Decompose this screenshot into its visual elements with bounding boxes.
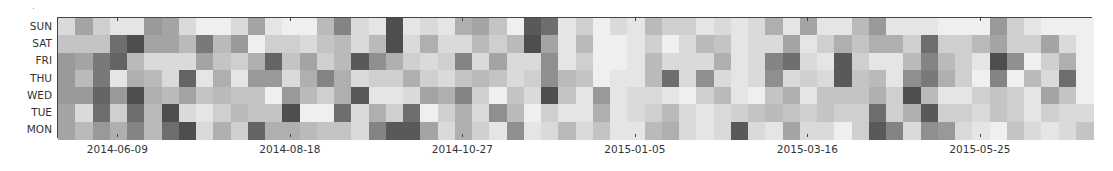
y-tick-label-thu: THU: [30, 72, 52, 84]
x-tick-mark: [462, 134, 463, 137]
heatmap-cell: [317, 122, 335, 140]
heatmap-cell: [524, 35, 542, 53]
heatmap-cell: [507, 70, 525, 88]
heatmap-cell: [645, 70, 663, 88]
heatmap-cell: [420, 70, 438, 88]
heatmap-cell: [179, 87, 197, 105]
heatmap-cell: [645, 104, 663, 122]
heatmap-cell: [248, 70, 266, 88]
heatmap-cell: [869, 87, 887, 105]
heatmap-cell: [507, 53, 525, 71]
heatmap-cell: [541, 104, 559, 122]
heatmap-cell: [765, 122, 783, 140]
heatmap-cell: [196, 122, 214, 140]
heatmap-cell: [834, 70, 852, 88]
heatmap-cell: [162, 35, 180, 53]
heatmap-cell: [645, 18, 663, 36]
heatmap-cell: [300, 35, 318, 53]
heatmap-cell: [938, 87, 956, 105]
heatmap-cell: [489, 53, 507, 71]
heatmap-cell: [593, 122, 611, 140]
heatmap-cell: [162, 70, 180, 88]
heatmap-cell: [489, 18, 507, 36]
heatmap-cell: [593, 35, 611, 53]
heatmap-cell: [455, 104, 473, 122]
x-tick-mark-top: [462, 18, 463, 21]
heatmap-cell: [1024, 35, 1042, 53]
heatmap-cell: [783, 104, 801, 122]
heatmap-cell: [420, 87, 438, 105]
heatmap-cell: [196, 87, 214, 105]
heatmap-cell: [800, 53, 818, 71]
heatmap-cell: [75, 122, 93, 140]
heatmap-cell: [179, 18, 197, 36]
heatmap-cell: [731, 104, 749, 122]
heatmap-cell: [576, 35, 594, 53]
heatmap-cell: [1041, 122, 1059, 140]
heatmap-cell: [817, 122, 835, 140]
heatmap-cell: [1041, 35, 1059, 53]
heatmap-cell: [627, 122, 645, 140]
heatmap-cell: [213, 35, 231, 53]
x-tick-label: 2015-03-16: [777, 143, 838, 155]
heatmap-cell: [213, 70, 231, 88]
heatmap-cell: [662, 35, 680, 53]
heatmap-cell: [886, 70, 904, 88]
heatmap-cell: [765, 53, 783, 71]
heatmap-cell: [93, 35, 111, 53]
heatmap-cell: [489, 122, 507, 140]
heatmap-cell: [627, 70, 645, 88]
heatmap-cell: [110, 122, 128, 140]
x-tick-mark-top: [807, 18, 808, 21]
heatmap-cell: [765, 18, 783, 36]
y-tick-label-sat: SAT: [32, 37, 52, 49]
heatmap-cell: [282, 53, 300, 71]
heatmap-cell: [248, 35, 266, 53]
heatmap-cell: [58, 35, 76, 53]
heatmap-cell: [541, 53, 559, 71]
heatmap-cell: [800, 122, 818, 140]
heatmap-cell: [265, 35, 283, 53]
heatmap-cell: [972, 104, 990, 122]
x-tick-label: 2014-10-27: [432, 143, 493, 155]
heatmap-cell: [351, 35, 369, 53]
heatmap-cell: [852, 87, 870, 105]
heatmap-cell: [317, 104, 335, 122]
heatmap-cell: [127, 18, 145, 36]
heatmap-cell: [403, 70, 421, 88]
heatmap-cell: [558, 70, 576, 88]
heatmap-cell: [627, 35, 645, 53]
heatmap-cell: [58, 122, 76, 140]
heatmap-cell: [93, 122, 111, 140]
heatmap-cell: [1024, 122, 1042, 140]
x-tick-mark-top: [635, 18, 636, 21]
heatmap-cell: [1024, 104, 1042, 122]
heatmap-cell: [455, 53, 473, 71]
heatmap-cell: [403, 18, 421, 36]
heatmap-cell: [990, 18, 1008, 36]
heatmap-cell: [576, 122, 594, 140]
heatmap-cell: [972, 53, 990, 71]
heatmap-cell: [1076, 87, 1094, 105]
heatmap-cell: [627, 18, 645, 36]
heatmap-cell: [645, 35, 663, 53]
heatmap-cell: [817, 35, 835, 53]
heatmap-cell: [593, 87, 611, 105]
heatmap-cell: [679, 53, 697, 71]
heatmap-cell: [783, 18, 801, 36]
heatmap-cell: [886, 18, 904, 36]
heatmap-cell: [1041, 18, 1059, 36]
heatmap-cell: [317, 53, 335, 71]
heatmap-cell: [696, 104, 714, 122]
heatmap-cell: [265, 53, 283, 71]
heatmap-cell: [1076, 122, 1094, 140]
heatmap-cell: [334, 104, 352, 122]
heatmap-cell: [645, 122, 663, 140]
heatmap-cell: [783, 122, 801, 140]
heatmap-cell: [886, 104, 904, 122]
heatmap-cell: [576, 104, 594, 122]
heatmap-cell: [955, 35, 973, 53]
heatmap-cell: [800, 35, 818, 53]
heatmap-cell: [351, 70, 369, 88]
heatmap-cell: [455, 35, 473, 53]
